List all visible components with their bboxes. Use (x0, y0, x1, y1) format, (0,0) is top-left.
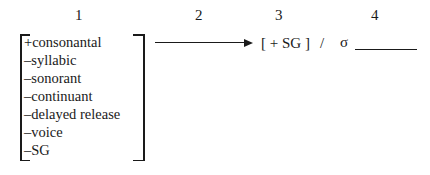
column-number-2: 2 (195, 6, 203, 24)
right-bracket-top (133, 34, 144, 36)
feature-sg: –SG (24, 141, 50, 159)
column-number-1: 1 (75, 6, 83, 24)
right-bracket-vertical (143, 34, 145, 161)
focus-blank-line (355, 49, 417, 50)
feature-voice: –voice (24, 123, 63, 141)
environment-slash: / (320, 34, 324, 52)
feature-continuant: –continuant (24, 87, 92, 105)
rule-output: [ + SG ] (261, 34, 310, 52)
left-bracket-vertical (20, 34, 22, 161)
sigma-symbol: σ (340, 33, 348, 51)
column-number-4: 4 (371, 6, 379, 24)
feature-delayed-release: –delayed release (24, 105, 120, 123)
feature-syllabic: –syllabic (24, 51, 76, 69)
feature-sonorant: –sonorant (24, 69, 81, 87)
left-bracket-bottom (20, 160, 30, 162)
column-number-3: 3 (275, 6, 283, 24)
feature-consonantal: +consonantal (24, 33, 101, 51)
right-bracket-bottom (133, 160, 144, 162)
